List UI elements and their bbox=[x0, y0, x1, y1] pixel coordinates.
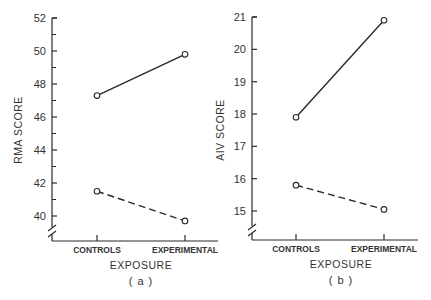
x-category-label: EXPERIMENTAL bbox=[351, 244, 417, 254]
series-line-solid bbox=[296, 20, 384, 117]
y-axis-title: AIV SCORE bbox=[214, 99, 226, 161]
panel-label: ( b ) bbox=[329, 274, 354, 286]
y-axis-title: RMA SCORE bbox=[12, 96, 24, 164]
y-tick-label: 21 bbox=[234, 11, 246, 23]
y-tick-label: 19 bbox=[234, 76, 246, 88]
y-tick-label: 46 bbox=[34, 111, 46, 123]
chart-figure: 40424446485052CONTROLSEXPERIMENTALRMA SC… bbox=[0, 0, 431, 300]
y-tick-label: 42 bbox=[34, 177, 46, 189]
series-line-dashed bbox=[97, 191, 185, 221]
data-point-marker bbox=[182, 52, 188, 58]
data-point-marker bbox=[182, 218, 188, 224]
y-tick-label: 16 bbox=[234, 173, 246, 185]
series-line-dashed bbox=[296, 185, 384, 209]
data-point-marker bbox=[94, 93, 100, 99]
y-tick-label: 18 bbox=[234, 108, 246, 120]
y-tick-label: 48 bbox=[34, 78, 46, 90]
x-category-label: EXPERIMENTAL bbox=[152, 245, 218, 255]
data-point-marker bbox=[293, 114, 299, 120]
y-tick-label: 40 bbox=[34, 210, 46, 222]
data-point-marker bbox=[293, 182, 299, 188]
panel-b: 15161718192021CONTROLSEXPERIMENTALAIV SC… bbox=[214, 11, 418, 286]
x-axis-title: EXPOSURE bbox=[310, 258, 372, 270]
y-tick-label: 17 bbox=[234, 140, 246, 152]
x-category-label: CONTROLS bbox=[73, 245, 121, 255]
y-tick-label: 50 bbox=[34, 45, 46, 57]
y-tick-label: 15 bbox=[234, 205, 246, 217]
panel-label: ( a ) bbox=[129, 275, 154, 287]
x-axis-title: EXPOSURE bbox=[110, 259, 172, 271]
x-category-label: CONTROLS bbox=[272, 244, 320, 254]
y-tick-label: 52 bbox=[34, 12, 46, 24]
panel-a: 40424446485052CONTROLSEXPERIMENTALRMA SC… bbox=[12, 12, 218, 287]
series-line-solid bbox=[97, 54, 185, 95]
data-point-marker bbox=[381, 207, 387, 213]
data-point-marker bbox=[94, 188, 100, 194]
y-tick-label: 20 bbox=[234, 43, 246, 55]
data-point-marker bbox=[381, 17, 387, 23]
y-tick-label: 44 bbox=[34, 144, 46, 156]
